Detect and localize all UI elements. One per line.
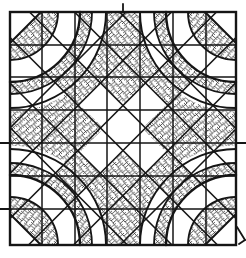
quilt-block-figure (0, 0, 246, 258)
quilt-pattern-drawing (0, 0, 246, 258)
